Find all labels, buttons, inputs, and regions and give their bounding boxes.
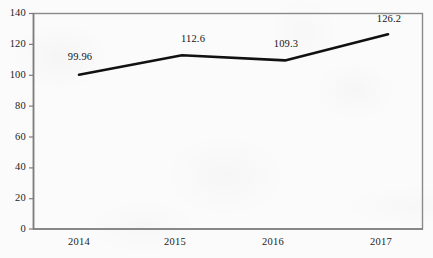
y-tick-label-120: 120 — [0, 38, 26, 49]
data-label-2016: 109.3 — [263, 38, 309, 49]
y-tick-label-0: 0 — [0, 223, 26, 234]
x-tick-label-2016: 2016 — [250, 236, 296, 247]
plot-area — [0, 0, 433, 258]
data-label-2015: 112.6 — [170, 33, 216, 44]
y-tick-label-140: 140 — [0, 7, 26, 18]
x-tick-label-2014: 2014 — [56, 236, 102, 247]
y-tick-label-60: 60 — [0, 131, 26, 142]
x-tick-label-2015: 2015 — [152, 236, 198, 247]
y-tick-label-40: 40 — [0, 161, 26, 172]
plot-frame — [34, 14, 423, 230]
x-tick-label-2017: 2017 — [358, 236, 404, 247]
data-label-2014: 99.96 — [57, 51, 103, 62]
y-tick-label-100: 100 — [0, 69, 26, 80]
line-chart: 140 120 100 80 60 40 20 0 2014 2015 2016… — [0, 0, 433, 258]
y-tick-label-20: 20 — [0, 192, 26, 203]
data-series-line — [79, 34, 388, 75]
data-label-2017: 126.2 — [366, 13, 412, 24]
y-tick-label-80: 80 — [0, 100, 26, 111]
